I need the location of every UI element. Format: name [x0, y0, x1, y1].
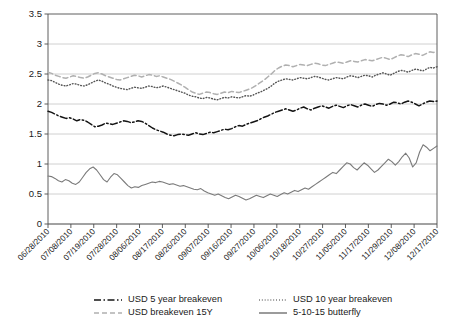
chart-container: 00.511.522.533.5 06/28/201007/08/201007/… [0, 0, 454, 334]
grid-lines [48, 14, 437, 224]
y-tick-label: 3.5 [29, 8, 42, 19]
figure-caption [0, 325, 454, 334]
y-tick-label: 1.5 [29, 128, 42, 139]
series-line-0 [48, 101, 437, 136]
breakeven-inflation-line-chart: 00.511.522.533.5 06/28/201007/08/201007/… [0, 0, 454, 334]
legend-label-3: 5-10-15 butterfly [293, 307, 361, 317]
series-line-1 [48, 67, 437, 100]
x-axis: 06/28/201007/08/201007/19/201007/28/2010… [16, 224, 441, 262]
y-tick-label: 3 [37, 38, 42, 49]
y-tick-label: 0.5 [29, 188, 42, 199]
y-tick-label: 2 [37, 98, 42, 109]
y-tick-label: 2.5 [29, 68, 42, 79]
chart-legend: USD 5 year breakevenUSD 10 year breakeve… [94, 294, 392, 317]
legend-label-2: USD breakeven 15Y [128, 307, 213, 317]
series-line-2 [48, 52, 437, 95]
legend-label-1: USD 10 year breakeven [293, 294, 392, 304]
y-tick-label: 1 [37, 158, 42, 169]
series-line-3 [48, 145, 437, 200]
y-axis: 00.511.522.533.5 [29, 8, 48, 229]
y-tick-label: 0 [37, 218, 42, 229]
plot-frame [48, 14, 437, 224]
legend-label-0: USD 5 year breakeven [128, 294, 222, 304]
